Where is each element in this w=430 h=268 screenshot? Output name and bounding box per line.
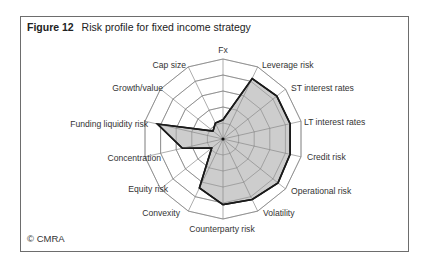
axis-label-st-interest-rates: ST interest rates bbox=[291, 83, 354, 93]
axis-label-fx: Fx bbox=[218, 45, 228, 55]
radar-series-area bbox=[145, 59, 301, 219]
axis-label-counterparty-risk: Counterparty risk bbox=[189, 224, 255, 234]
axis-label-volatility: Volatility bbox=[263, 208, 295, 218]
copyright-notice: © CMRA bbox=[27, 233, 65, 244]
axis-label-equity-risk: Equity risk bbox=[128, 184, 168, 194]
axis-label-funding-liquidity-risk: Funding liquidity risk bbox=[70, 119, 149, 129]
axis-label-leverage-risk: Leverage risk bbox=[262, 60, 314, 70]
axis-label-convexity: Convexity bbox=[142, 208, 180, 218]
axis-label-lt-interest-rates: LT interest rates bbox=[304, 117, 365, 127]
center-point bbox=[221, 137, 224, 140]
axis-label-growth-value: Growth/value bbox=[112, 83, 163, 93]
axis-label-credit-risk: Credit risk bbox=[307, 152, 346, 162]
radar-chart: FxLeverage riskST interest ratesLT inter… bbox=[0, 0, 430, 268]
axis-label-operational-risk: Operational risk bbox=[291, 186, 352, 196]
series-polygon bbox=[158, 79, 291, 205]
axis-label-cap-size: Cap size bbox=[153, 60, 187, 70]
axis-label-concentration: Concentration bbox=[107, 153, 161, 163]
